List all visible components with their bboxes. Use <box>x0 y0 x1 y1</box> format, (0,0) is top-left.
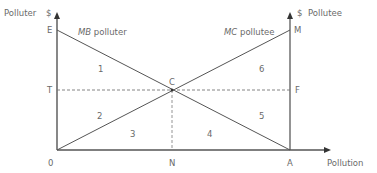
point-o-label: 0 <box>48 159 53 168</box>
left-axis-arrow-icon <box>54 12 60 19</box>
point-t-label: T <box>47 86 52 95</box>
region-3-label: 3 <box>130 130 135 139</box>
right-axis-arrow-icon <box>287 12 293 19</box>
region-4-label: 4 <box>207 130 212 139</box>
mc-pollutee-label: MC pollutee <box>224 28 274 37</box>
region-1-label: 1 <box>98 65 103 74</box>
left-axis-unit: $ <box>46 9 51 18</box>
x-axis-label: Pollution <box>327 159 363 168</box>
point-f-label: F <box>295 86 300 95</box>
left-axis-label: Polluter <box>4 9 36 18</box>
point-n-label: N <box>169 159 175 168</box>
point-c-label: C <box>169 78 175 87</box>
region-5-label: 5 <box>259 112 264 121</box>
region-2-label: 2 <box>97 112 102 121</box>
x-axis-arrow-icon <box>324 147 331 153</box>
point-a-label: A <box>287 159 293 168</box>
equilibrium-point-c <box>171 89 174 92</box>
diagram-canvas <box>0 0 377 173</box>
point-m-label: M <box>294 26 301 35</box>
mb-polluter-label: MB polluter <box>78 28 127 37</box>
region-6-label: 6 <box>259 65 264 74</box>
right-axis-label: Pollutee <box>308 9 342 18</box>
right-axis-unit: $ <box>297 9 302 18</box>
point-e-label: E <box>47 26 52 35</box>
